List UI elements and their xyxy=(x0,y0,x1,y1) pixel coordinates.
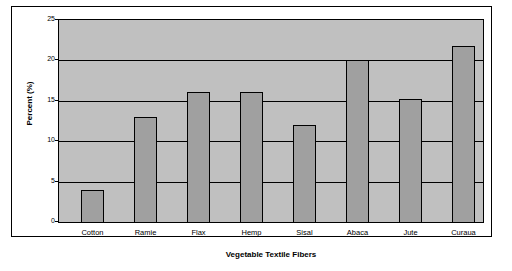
y-tick-label: 15 xyxy=(15,96,55,104)
bar-curaua xyxy=(452,46,475,223)
x-tick-label-flax: Flax xyxy=(172,228,225,238)
y-tick-label: 5 xyxy=(15,177,55,185)
bar-jute xyxy=(399,99,422,223)
y-tick-label: 25 xyxy=(15,15,55,23)
bar-hemp xyxy=(240,92,263,223)
bar-sisal xyxy=(293,125,316,223)
bar-cotton xyxy=(81,190,104,223)
bar-abaca xyxy=(346,60,369,223)
bar-flax xyxy=(187,92,210,223)
x-tick-label-abaca: Abaca xyxy=(331,228,384,238)
x-tick-label-ramie: Ramie xyxy=(119,228,172,238)
y-tick-label: 0 xyxy=(15,217,55,225)
chart-frame: 25 20 15 10 5 0 Percent (%) xyxy=(11,6,492,237)
y-tick-label: 20 xyxy=(15,55,55,63)
x-tick-label-jute: Jute xyxy=(384,228,437,238)
y-axis-title: Percent (%) xyxy=(25,44,34,164)
bar-series xyxy=(58,19,484,223)
x-tick-label-cotton: Cotton xyxy=(66,228,119,238)
x-tick-label-sisal: Sisal xyxy=(278,228,331,238)
x-tick-label-hemp: Hemp xyxy=(225,228,278,238)
x-tick-label-curaua: Curaua xyxy=(437,228,490,238)
bar-chart: 25 20 15 10 5 0 Percent (%) xyxy=(0,0,512,271)
x-axis-title: Vegetable Textile Fibers xyxy=(58,250,484,259)
y-tick-label: 10 xyxy=(15,136,55,144)
bar-ramie xyxy=(134,117,157,223)
x-axis-ticks: Cotton Ramie Flax Hemp Sisal Abaca Jute … xyxy=(58,228,484,240)
y-axis-ticks: 25 20 15 10 5 0 xyxy=(12,19,55,223)
